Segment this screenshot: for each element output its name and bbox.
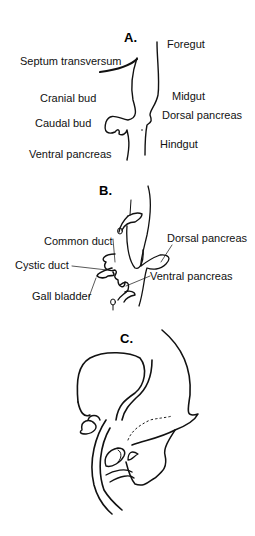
label-cystic-duct: Cystic duct: [15, 260, 69, 271]
label-dorsal-pancreas-a: Dorsal pancreas: [162, 110, 242, 121]
label-midgut: Midgut: [172, 91, 205, 102]
label-septum-transversum: Septum transversum: [20, 56, 121, 67]
label-cranial-bud: Cranial bud: [40, 93, 96, 104]
label-caudal-bud: Caudal bud: [35, 118, 91, 129]
pancreas-development-diagram: A. Foregut Septum transversum Midgut Cra…: [0, 0, 255, 536]
label-common-duct: Common duct: [44, 236, 112, 247]
label-foregut: Foregut: [167, 39, 205, 50]
label-dorsal-pancreas-b: Dorsal pancreas: [167, 233, 247, 244]
label-ventral-pancreas-b: Ventral pancreas: [150, 271, 233, 282]
panel-c-title: C.: [120, 332, 133, 345]
label-gall-bladder: Gall bladder: [32, 291, 91, 302]
panel-a-title: A.: [124, 31, 137, 44]
panel-b-title: B.: [99, 184, 112, 197]
label-ventral-pancreas-a: Ventral pancreas: [29, 149, 112, 160]
panel-c-drawing: [77, 330, 198, 514]
label-hindgut: Hindgut: [160, 139, 198, 150]
